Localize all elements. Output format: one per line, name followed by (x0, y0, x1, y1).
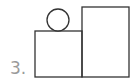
left-rectangle (35, 31, 82, 77)
circle-shape (47, 9, 69, 31)
right-rectangle (82, 7, 129, 77)
figure-diagram (0, 0, 138, 84)
